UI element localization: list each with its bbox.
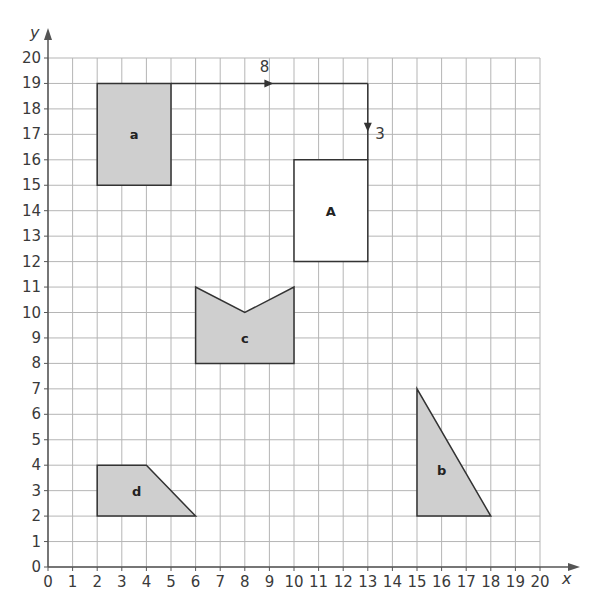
y-axis-arrow-icon — [44, 28, 52, 40]
x-tick-label: 2 — [92, 573, 102, 591]
arrow-down-icon — [364, 123, 372, 132]
x-axis-label: x — [561, 569, 572, 588]
y-tick-label: 12 — [22, 253, 41, 271]
y-tick-label: 0 — [31, 558, 41, 576]
y-tick-label: 11 — [22, 278, 41, 296]
y-tick-label: 14 — [22, 202, 41, 220]
shape-label-b: b — [437, 463, 446, 478]
x-tick-label: 5 — [166, 573, 176, 591]
y-tick-label: 19 — [22, 74, 41, 92]
x-tick-label: 1 — [68, 573, 78, 591]
x-tick-label: 6 — [191, 573, 201, 591]
x-tick-label: 19 — [506, 573, 525, 591]
shape-label-c: c — [241, 331, 249, 346]
y-tick-label: 8 — [31, 354, 41, 372]
shape-label-A: A — [326, 204, 336, 219]
y-tick-label: 18 — [22, 100, 41, 118]
x-tick-label: 0 — [43, 573, 53, 591]
x-tick-label: 20 — [530, 573, 549, 591]
y-tick-label: 2 — [31, 507, 41, 525]
x-tick-label: 4 — [142, 573, 152, 591]
y-tick-label: 4 — [31, 456, 41, 474]
y-tick-label: 3 — [31, 482, 41, 500]
x-tick-label: 15 — [407, 573, 426, 591]
y-tick-label: 16 — [22, 151, 41, 169]
y-tick-label: 6 — [31, 405, 41, 423]
x-tick-label: 8 — [240, 573, 250, 591]
x-tick-label: 12 — [334, 573, 353, 591]
y-axis-label: y — [29, 23, 40, 42]
x-tick-label: 9 — [265, 573, 275, 591]
x-tick-label: 11 — [309, 573, 328, 591]
x-tick-label: 7 — [215, 573, 225, 591]
x-tick-label: 17 — [457, 573, 476, 591]
y-tick-label: 17 — [22, 125, 41, 143]
x-tick-label: 16 — [432, 573, 451, 591]
x-tick-label: 18 — [481, 573, 500, 591]
translation-label-horizontal: 8 — [260, 58, 270, 76]
y-tick-label: 15 — [22, 176, 41, 194]
y-tick-label: 1 — [31, 533, 41, 551]
x-tick-label: 3 — [117, 573, 127, 591]
x-tick-label: 10 — [284, 573, 303, 591]
shape-label-a: a — [130, 127, 139, 142]
x-tick-label: 14 — [383, 573, 402, 591]
translation-label-vertical: 3 — [375, 125, 385, 143]
shape-b — [417, 389, 491, 516]
y-tick-label: 10 — [22, 304, 41, 322]
y-tick-label: 20 — [22, 49, 41, 67]
coordinate-grid-diagram: aAcbd 83 0123456789101112131415161718192… — [0, 0, 592, 612]
y-tick-label: 7 — [31, 380, 41, 398]
shape-label-d: d — [132, 484, 141, 499]
y-tick-label: 5 — [31, 431, 41, 449]
x-tick-label: 13 — [358, 573, 377, 591]
y-tick-label: 9 — [31, 329, 41, 347]
y-tick-label: 13 — [22, 227, 41, 245]
